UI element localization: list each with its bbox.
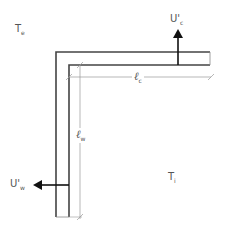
label-ti-sub: i (174, 177, 176, 184)
arrow-uw-head (33, 180, 42, 190)
label-uc: U'c (170, 14, 183, 26)
label-uw: U'w (10, 179, 25, 191)
label-length-w: ℓw (76, 128, 86, 143)
wall-inner-edge (69, 65, 210, 217)
label-lc-sub: c (139, 77, 142, 84)
label-te-sub: e (21, 29, 25, 36)
label-length-c: ℓc (132, 71, 144, 84)
label-lw-sub: w (81, 135, 86, 142)
wall-junction-diagram (0, 0, 226, 238)
label-interior-temperature: Ti (168, 172, 176, 184)
label-uc-sub: c (180, 19, 183, 26)
label-uw-sub: w (20, 184, 25, 191)
label-exterior-temperature: Te (15, 24, 25, 36)
arrow-uc-head (173, 29, 183, 38)
